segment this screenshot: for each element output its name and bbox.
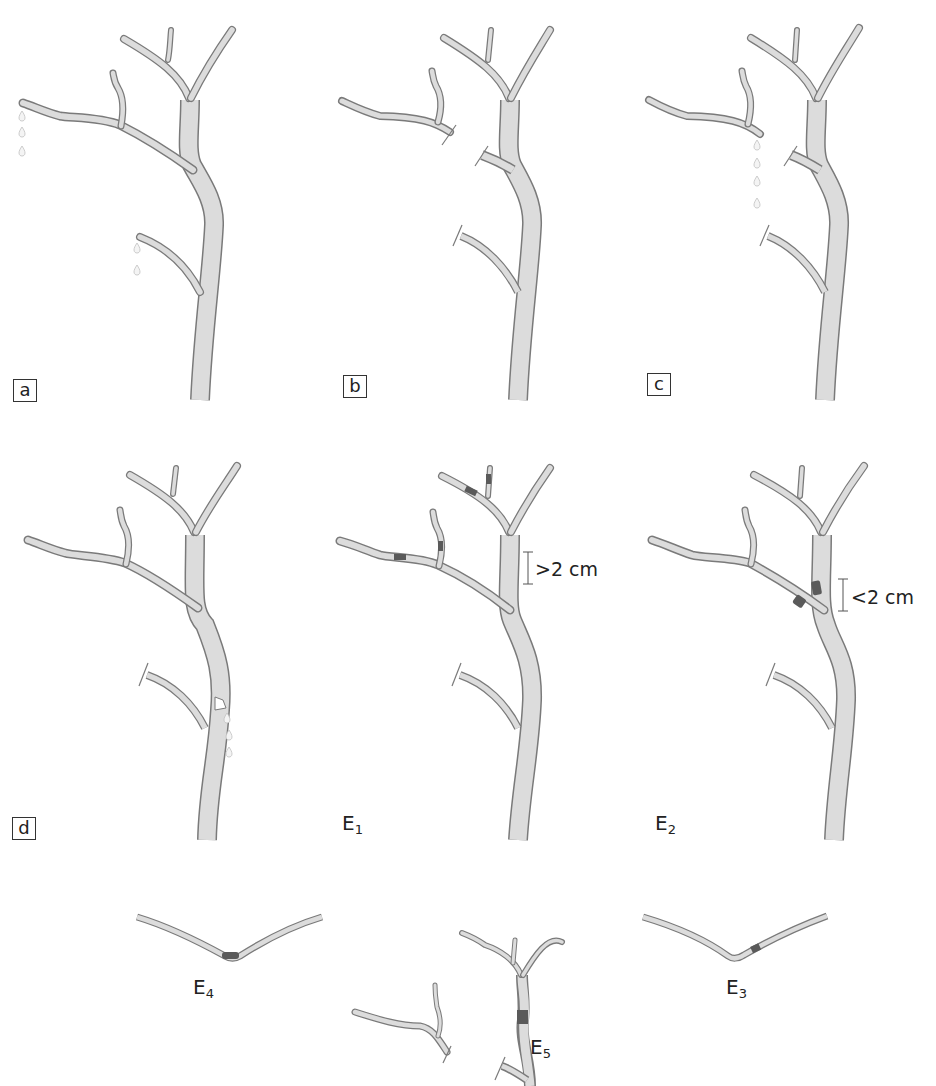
panel-c-tree (649, 28, 859, 400)
panel-label-e2: E2 (655, 812, 676, 841)
panel-label-e4: E4 (193, 976, 214, 1005)
dark-band (394, 554, 406, 560)
label-letter: E (655, 811, 668, 835)
panel-label-c: c (647, 373, 671, 396)
label-letter: E (530, 1035, 543, 1059)
label-letter: E (726, 975, 739, 999)
panel-label-a: a (13, 379, 37, 402)
panel-label-b: b (343, 375, 367, 398)
panel-label-e1: E1 (342, 812, 363, 841)
panel-e4-segment (137, 917, 322, 959)
label-subscript: 4 (206, 986, 214, 1001)
figure-canvas (0, 0, 936, 1086)
panel-label-e5: E5 (530, 1036, 551, 1065)
label-subscript: 2 (668, 822, 676, 837)
label-subscript: 1 (355, 822, 363, 837)
droplet-icon (19, 111, 25, 121)
panel-b-tree (342, 30, 550, 400)
measure-label-e2: <2 cm (851, 587, 914, 607)
panel-e2-tree (652, 466, 864, 840)
measure-label-e1: >2 cm (535, 559, 598, 579)
label-letter: E (342, 811, 355, 835)
label-subscript: 5 (543, 1046, 551, 1061)
label-subscript: 3 (739, 986, 747, 1001)
panel-d-tree (28, 466, 237, 840)
label-letter: E (193, 975, 206, 999)
panel-e3-segment (643, 916, 827, 958)
panel-e1-tree (340, 468, 550, 840)
dark-band (222, 952, 239, 959)
panel-label-e3: E3 (726, 976, 747, 1005)
panel-a-tree (19, 30, 232, 400)
panel-label-d: d (12, 817, 36, 840)
